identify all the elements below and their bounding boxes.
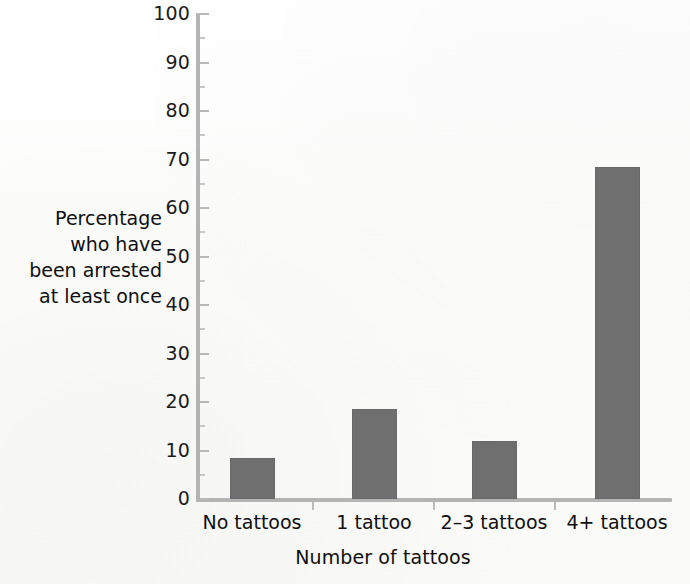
x-axis-title: Number of tattoos bbox=[0, 546, 690, 568]
x-axis-tick-label-2: 2–3 tattoos bbox=[424, 512, 564, 533]
x-axis-tick-label-0: No tattoos bbox=[182, 512, 322, 533]
bar-2 bbox=[472, 441, 517, 499]
bar-1 bbox=[352, 409, 397, 499]
bar-0 bbox=[230, 458, 275, 499]
bar-3 bbox=[595, 167, 640, 499]
x-axis-tick-label-3: 4+ tattoos bbox=[547, 512, 687, 533]
x-axis-tick-label-1: 1 tattoo bbox=[304, 512, 444, 533]
bar-chart-figure: Percentage who have been arrested at lea… bbox=[0, 0, 690, 584]
x-axis-title-text: Number of tattoos bbox=[295, 546, 471, 568]
bars-group bbox=[0, 0, 690, 584]
